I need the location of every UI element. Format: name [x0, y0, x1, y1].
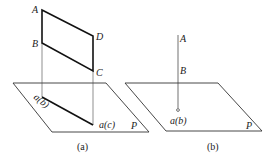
label-plane-p-b: P	[245, 120, 252, 131]
caption-b: (b)	[207, 141, 219, 153]
plane-p-b	[125, 83, 262, 131]
label-b-a: A	[179, 33, 187, 44]
label-d: D	[95, 31, 104, 42]
parallelogram-abcd	[42, 10, 93, 71]
plane-p-a	[13, 83, 149, 132]
figure-b: A B a(b) P (b)	[125, 33, 262, 153]
caption-a: (a)	[77, 141, 88, 153]
label-b-projection-ab: a(b)	[170, 115, 187, 127]
label-projection-ab: a(b)	[31, 91, 52, 111]
label-b-b: B	[180, 65, 186, 76]
label-projection-dc: a(c)	[99, 119, 116, 131]
projection-point	[177, 109, 180, 112]
figure-a: A B D C a(b) a(c) P (a)	[13, 4, 149, 153]
label-plane-p-a: P	[130, 120, 137, 131]
label-a: A	[31, 4, 39, 15]
label-b: B	[32, 38, 38, 49]
label-c: C	[96, 67, 103, 78]
projection-diagram: A B D C a(b) a(c) P (a) A B a(b) P (b)	[0, 0, 275, 165]
